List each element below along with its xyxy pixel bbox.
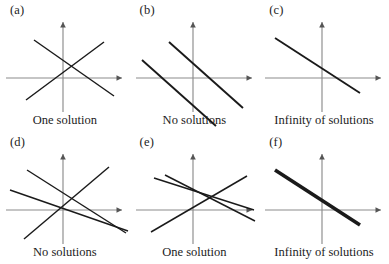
graph-line-a-1 — [26, 42, 104, 100]
plot-area-f — [259, 148, 389, 244]
plot-area-c — [259, 16, 389, 112]
graph-line-f-1 — [275, 170, 360, 225]
panel-caption-f: Infinity of solutions — [259, 246, 389, 259]
panel-label-e: (e) — [140, 136, 154, 149]
panel-label-c: (c) — [269, 4, 283, 17]
plot-area-d — [0, 148, 130, 244]
y-axis-arrow-icon-e — [190, 154, 196, 160]
x-axis-arrow-icon-c — [376, 75, 381, 81]
panel-caption-e: One solution — [130, 246, 260, 259]
x-axis-arrow-icon-f — [376, 207, 381, 213]
graph-line-e-2 — [151, 176, 247, 232]
panel-label-a: (a) — [10, 4, 24, 17]
y-axis-arrow-icon-b — [190, 22, 196, 28]
panel-a: (a)One solution — [0, 0, 130, 132]
panel-label-d: (d) — [10, 136, 25, 149]
panel-d: (d)No solutions — [0, 132, 130, 264]
y-axis-arrow-icon-f — [319, 154, 325, 160]
graph-line-e-3 — [165, 175, 255, 221]
y-axis-arrow-icon-c — [319, 22, 325, 28]
panel-b: (b)No solutions — [130, 0, 260, 132]
graph-line-a-2 — [34, 40, 114, 96]
x-axis-arrow-icon-d — [116, 207, 121, 213]
figure-canvas: (a)One solution(b)No solutions(c)Infinit… — [0, 0, 389, 264]
x-axis-arrow-icon-b — [246, 75, 251, 81]
panel-label-b: (b) — [140, 4, 155, 17]
panel-caption-a: One solution — [0, 114, 130, 127]
panel-caption-c: Infinity of solutions — [259, 114, 389, 127]
graph-line-c-1 — [275, 38, 360, 93]
graph-line-e-1 — [154, 178, 254, 210]
panel-c: (c)Infinity of solutions — [259, 0, 389, 132]
x-axis-arrow-icon-a — [116, 75, 121, 81]
graph-line-b-1 — [169, 42, 243, 108]
plot-area-e — [130, 148, 260, 244]
panel-e: (e)One solution — [130, 132, 260, 264]
graph-line-d-3 — [24, 167, 109, 239]
panel-caption-b: No solutions — [130, 114, 260, 127]
y-axis-arrow-icon-a — [60, 22, 66, 28]
plot-area-a — [0, 16, 130, 112]
panel-label-f: (f) — [269, 136, 282, 149]
plot-area-b — [130, 16, 260, 112]
panel-f: (f)Infinity of solutions — [259, 132, 389, 264]
y-axis-arrow-icon-d — [60, 154, 66, 160]
panel-caption-d: No solutions — [0, 246, 130, 259]
